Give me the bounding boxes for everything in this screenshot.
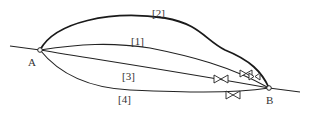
valve-icon xyxy=(249,73,260,80)
node-b-label: B xyxy=(266,94,273,106)
path-4-label: [4] xyxy=(118,93,131,105)
path-1-label: [1] xyxy=(131,35,144,47)
valve-icon xyxy=(214,75,228,83)
pipe-network-diagram: A B [2] [1] [3] [4] xyxy=(0,0,309,114)
inlet-line xyxy=(10,46,40,50)
path-3-label: [3] xyxy=(122,70,135,82)
node-a-label: A xyxy=(28,56,36,68)
path-3 xyxy=(40,50,269,88)
node-a xyxy=(38,48,43,53)
outlet-line xyxy=(269,88,300,92)
valve-icon xyxy=(226,91,240,99)
node-b xyxy=(267,86,272,91)
path-2-label: [2] xyxy=(152,7,165,19)
